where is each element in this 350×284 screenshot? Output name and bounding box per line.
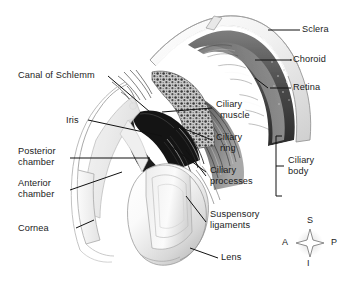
eye-anatomy-illustration [0,0,350,284]
label-ciliary-body-line1: Ciliary [288,155,314,166]
label-sclera: Sclera [302,24,329,35]
orientation-compass-star [296,229,324,257]
label-anterior-chamber-line2: chamber [18,189,54,200]
compass-label-inferior: I [307,258,310,268]
label-ciliary-processes-line1: Ciliary [210,165,236,176]
label-choroid: Choroid [293,54,326,65]
label-ciliary-muscle-line2: muscle [220,110,250,121]
label-ciliary-ring-line1: Ciliary [216,132,242,143]
eye-anatomy-figure: Sclera Choroid Retina Canal of Schlemm I… [0,0,350,284]
label-anterior-chamber-line1: Anterior [18,178,51,189]
label-suspensory-ligaments-line2: ligaments [210,220,250,231]
label-cornea: Cornea [18,223,49,234]
label-ciliary-muscle-line1: Ciliary [216,99,242,110]
label-canal-of-schlemm: Canal of Schlemm [18,70,95,81]
label-ciliary-processes-line2: processes [210,176,253,187]
label-ciliary-ring-line2: ring [220,143,236,154]
label-posterior-chamber-line2: chamber [18,157,54,168]
label-lens: Lens [221,252,241,263]
compass-label-superior: S [307,215,313,225]
compass-label-posterior: P [331,237,337,247]
label-retina: Retina [293,82,320,93]
label-posterior-chamber-line1: Posterior [18,146,56,157]
label-suspensory-ligaments-line1: Suspensory [210,209,260,220]
label-iris: Iris [66,115,79,126]
compass-label-anterior: A [282,237,288,247]
label-ciliary-body-line2: body [288,166,308,177]
